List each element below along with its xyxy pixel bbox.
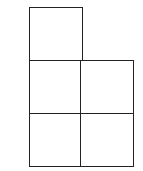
grid-cell-r2-c0	[29, 113, 83, 167]
grid-cell-r1-c1	[80, 60, 134, 114]
grid-cell-r2-c1	[80, 113, 134, 167]
grid-cell-r0-c0	[29, 7, 83, 61]
grid-cell-r1-c0	[29, 60, 83, 114]
